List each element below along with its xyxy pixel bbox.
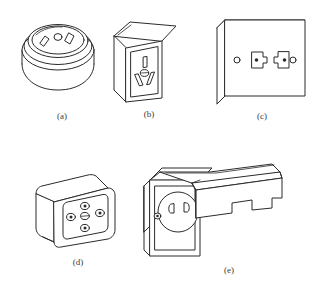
figure-c-caption: (c)	[212, 112, 312, 121]
socket-a-center-hole	[54, 34, 62, 41]
socket-d-hole-top-dot	[84, 205, 87, 208]
plate-c-outlet-right-dot	[283, 58, 287, 62]
socket-d-hole-bottom-dot	[84, 227, 87, 230]
socket-e-screw-dot	[156, 215, 159, 218]
socket-b-slot-vertical	[144, 56, 148, 67]
socket-e-back-flange	[144, 180, 150, 232]
figure-a-round-socket: (a)	[14, 20, 110, 112]
socket-b-top-face	[114, 22, 176, 41]
socket-e-slot-left	[169, 204, 174, 213]
figure-b-rect-socket: (b)	[110, 18, 188, 112]
plate-c-screw-hole-right	[290, 57, 296, 63]
figure-d-caption: (d)	[30, 258, 126, 267]
figure-e-caption: (e)	[140, 266, 318, 275]
plate-c-screw-hole-left	[234, 57, 240, 63]
socket-a-top-face	[28, 25, 88, 58]
figure-d-five-hole-socket: (d)	[30, 166, 126, 258]
figure-c-wall-plate: (c)	[212, 16, 312, 114]
socket-d-hole-left-dot	[70, 216, 73, 219]
socket-d-left-face	[36, 194, 54, 242]
socket-d-hole-right-dot	[99, 212, 102, 215]
plate-c-left-edge-face	[217, 20, 225, 104]
figure-sheet: (a) (b)	[0, 0, 325, 299]
socket-e-slot-right	[184, 203, 189, 212]
figure-a-caption: (a)	[14, 112, 110, 121]
figure-b-caption: (b)	[110, 110, 188, 119]
figure-e-socket-with-cover: (e)	[140, 156, 318, 268]
socket-e-circular-recess	[158, 192, 198, 232]
plate-c-outlet-left-dot	[255, 58, 259, 62]
